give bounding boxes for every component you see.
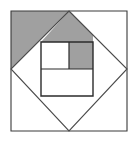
figure-container bbox=[0, 0, 132, 144]
geometric-figure bbox=[0, 0, 132, 144]
shaded-inner-top-right-cell bbox=[69, 42, 93, 69]
